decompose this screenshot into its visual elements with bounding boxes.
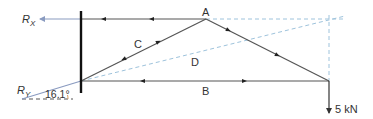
arrow-right-icon — [242, 79, 247, 83]
label-load: 5 kN — [335, 103, 358, 115]
label-ry: RY — [17, 84, 31, 99]
arrow-left-icon — [149, 17, 154, 21]
arrow-down-right-icon — [274, 52, 280, 58]
member-a-tip — [206, 19, 329, 81]
label-member-b: B — [202, 85, 209, 97]
truss-diagram: RX RY 16.1° A C D B 5 kN — [0, 0, 373, 119]
arrow-left-icon — [101, 17, 106, 21]
arrow-left-icon — [140, 79, 145, 83]
label-angle: 16.1° — [45, 88, 70, 100]
construction-line-d — [81, 16, 345, 81]
label-member-c: C — [134, 38, 142, 50]
label-node-a: A — [202, 6, 210, 18]
member-c — [81, 19, 206, 81]
arrow-down-right-icon — [225, 27, 231, 33]
label-rx: RX — [22, 13, 36, 28]
label-member-d: D — [191, 56, 199, 68]
construction-lines — [81, 15, 345, 81]
